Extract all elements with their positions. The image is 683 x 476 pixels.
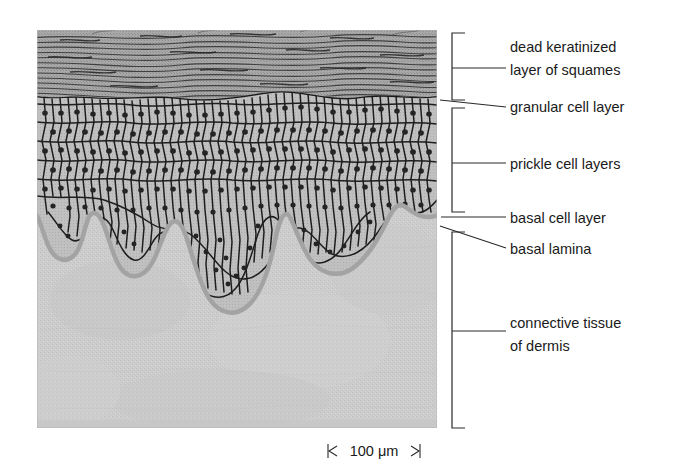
scale-bar-label: 100 μm	[350, 443, 399, 459]
label-prickle-cell-layers: prickle cell layers	[510, 156, 620, 172]
label-basal-cell-layer: basal cell layer	[510, 210, 606, 226]
keratinized-layer	[30, 27, 445, 103]
tissue-panel	[20, 27, 450, 430]
label-dead-keratinized-layer-line1: dead keratinized	[510, 39, 616, 55]
label-connective-tissue-line1: connective tissue	[510, 315, 621, 331]
figure-svg: dead keratinized layer of squames granul…	[0, 0, 683, 476]
label-granular-cell-layer: granular cell layer	[510, 99, 625, 115]
histology-figure: dead keratinized layer of squames granul…	[0, 0, 683, 476]
label-connective-tissue-line2: of dermis	[510, 338, 570, 354]
label-basal-lamina: basal lamina	[510, 241, 592, 257]
label-dead-keratinized-layer-line2: layer of squames	[510, 62, 620, 78]
